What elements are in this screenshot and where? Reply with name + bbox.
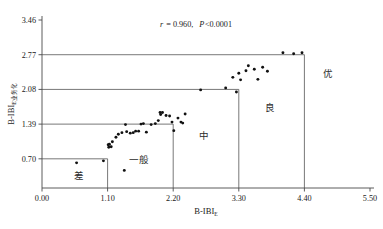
data-point-0: [75, 161, 78, 164]
data-point-35: [235, 90, 238, 93]
data-point-41: [247, 64, 250, 67]
data-point-16: [137, 130, 140, 133]
data-point-38: [237, 72, 240, 75]
data-point-34: [199, 88, 202, 91]
x-tick-label-5: 5.50: [363, 194, 377, 203]
data-point-11: [124, 123, 127, 126]
data-point-14: [132, 131, 135, 134]
data-point-17: [140, 123, 143, 126]
data-point-40: [245, 69, 248, 72]
y-axis-title: B-IBIE业务化: [6, 83, 18, 124]
data-point-7: [111, 140, 114, 143]
y-tick-label-1: 1.39: [22, 120, 36, 129]
data-point-36: [224, 86, 227, 89]
zone-label-3: 中: [199, 130, 209, 141]
zone-label-2: 一般: [129, 154, 149, 165]
data-point-19: [145, 131, 148, 134]
data-point-13: [129, 132, 132, 135]
data-point-18: [142, 122, 145, 125]
chart-canvas: 差一般中良优0.001.102.203.304.405.500.701.392.…: [0, 0, 383, 229]
data-point-9: [117, 133, 120, 136]
data-point-37: [231, 76, 234, 79]
data-point-12: [125, 130, 128, 133]
data-point-42: [253, 68, 256, 71]
y-tick-label-4: 3.46: [22, 16, 36, 25]
data-point-10: [120, 131, 123, 134]
data-point-20: [150, 123, 153, 126]
y-tick-label-0: 0.70: [22, 155, 36, 164]
data-point-5: [107, 146, 110, 149]
data-point-43: [256, 78, 259, 81]
data-point-25: [161, 111, 164, 114]
data-point-21: [154, 122, 157, 125]
data-point-47: [292, 52, 295, 55]
zone-label-1: 差: [74, 170, 84, 181]
data-point-22: [157, 119, 160, 122]
data-point-2: [123, 169, 126, 172]
x-tick-label-1: 1.10: [100, 194, 114, 203]
zone-label-5: 优: [323, 68, 333, 79]
data-point-27: [168, 115, 171, 118]
data-point-30: [177, 117, 180, 120]
data-point-8: [114, 136, 117, 139]
x-tick-label-0: 0.00: [35, 194, 49, 203]
zone-boundary-3: [42, 89, 239, 188]
data-point-4: [108, 143, 111, 146]
data-point-15: [134, 130, 137, 133]
data-point-44: [261, 66, 264, 69]
x-tick-label-4: 4.40: [297, 194, 311, 203]
data-point-6: [110, 145, 113, 148]
y-tick-label-2: 2.08: [22, 85, 36, 94]
x-tick-label-2: 2.20: [166, 194, 180, 203]
data-point-48: [301, 51, 304, 54]
data-point-1: [102, 159, 105, 162]
data-point-39: [239, 78, 242, 81]
data-point-33: [184, 113, 187, 116]
data-point-28: [171, 121, 174, 124]
data-point-26: [165, 114, 168, 117]
data-point-46: [281, 51, 284, 54]
scatter-plot-figure: 差一般中良优0.001.102.203.304.405.500.701.392.…: [0, 0, 383, 229]
x-tick-label-3: 3.30: [232, 194, 246, 203]
correlation-annotation: r = 0.960,P<0.0001: [160, 20, 232, 29]
data-point-45: [266, 70, 269, 73]
x-axis-title: B-IBIE: [194, 206, 218, 217]
data-point-29: [172, 129, 175, 132]
zone-label-4: 良: [265, 102, 275, 113]
data-point-32: [181, 122, 184, 125]
y-tick-label-3: 2.77: [22, 51, 36, 60]
